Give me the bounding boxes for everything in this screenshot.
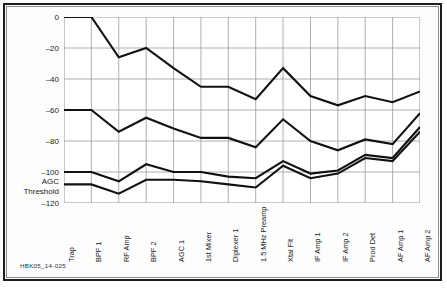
x-axis-tick-label: Prod Det bbox=[368, 233, 377, 262]
x-axis-tick-label: BPF 2 bbox=[149, 241, 158, 262]
agc-threshold-annotation: AGC Threshold bbox=[0, 177, 59, 198]
x-axis-tick-label: AGC 1 bbox=[177, 240, 186, 262]
y-axis-tick-label: –100 bbox=[0, 168, 59, 177]
y-axis-tick-label: 0 bbox=[0, 13, 59, 22]
x-axis-ticks: TrapBPF 1RF AmpBPF 2AGC 11st MixerDiplex… bbox=[64, 205, 420, 267]
agc-threshold-line2: Threshold bbox=[0, 187, 59, 198]
figure-chart-signal-levels: Input Signal Level (dBm) 0–20–40–60–80–1… bbox=[0, 0, 447, 288]
y-axis-tick-label: –20 bbox=[0, 44, 59, 53]
x-axis-tick-label: 1.5 MHz Preamp bbox=[259, 207, 268, 262]
data-series-line bbox=[64, 127, 420, 181]
y-axis-tick-label: –60 bbox=[0, 106, 59, 115]
y-axis-tick-label: –80 bbox=[0, 137, 59, 146]
plot-area bbox=[64, 17, 420, 203]
x-axis-tick-label: AF Amp 1 bbox=[396, 230, 405, 262]
data-series-line bbox=[64, 110, 420, 150]
x-axis-tick-label: RF Amp bbox=[122, 235, 131, 262]
data-series-line bbox=[64, 17, 420, 105]
y-axis-tick-label: –120 bbox=[0, 199, 59, 208]
x-axis-tick-label: IF Amp 1 bbox=[313, 232, 322, 262]
y-axis-tick-label: –40 bbox=[0, 75, 59, 84]
x-axis-tick-label: IF Amp 2 bbox=[341, 232, 350, 262]
x-axis-tick-label: Diplexer 1 bbox=[231, 229, 240, 262]
figure-caption: HBK05_14-025 bbox=[20, 262, 66, 269]
x-axis-tick-label: Xtal Flt bbox=[286, 239, 295, 262]
x-axis-tick-label: Trap bbox=[67, 247, 76, 262]
x-axis-tick-label: BPF 1 bbox=[94, 241, 103, 262]
plot-svg bbox=[64, 17, 420, 203]
agc-threshold-line1: AGC bbox=[0, 177, 59, 188]
x-axis-tick-label: 1st Mixer bbox=[204, 232, 213, 262]
x-axis-tick-label: AF Amp 2 bbox=[423, 230, 432, 262]
